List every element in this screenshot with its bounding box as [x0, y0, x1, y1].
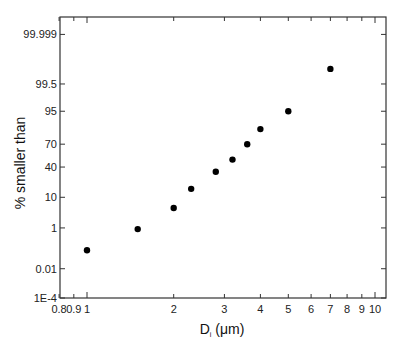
y-tick-label: 40: [45, 161, 57, 173]
data-point: [84, 247, 90, 253]
plot-area-border: [60, 17, 386, 298]
x-tick-label: 4: [257, 303, 263, 315]
x-tick-label: 3: [221, 303, 227, 315]
y-tick-label: 10: [45, 191, 57, 203]
data-point: [327, 66, 333, 72]
x-tick-label: 10: [369, 303, 381, 315]
x-tick-label: 7: [327, 303, 333, 315]
y-tick-label: 95: [45, 105, 57, 117]
y-tick-label: 99.999: [23, 28, 57, 40]
data-point: [244, 141, 250, 147]
y-tick-label: 0.01: [36, 263, 57, 275]
x-tick-label: 2: [171, 303, 177, 315]
y-tick-label: 70: [45, 138, 57, 150]
y-tick-label: 1: [51, 222, 57, 234]
x-axis-ticks: 0.80.912345678910: [51, 17, 381, 315]
probability-plot: 0.80.912345678910 1E-40.0111040709599.59…: [0, 0, 404, 348]
x-axis-title: Di (μm): [200, 321, 245, 338]
y-axis-title: % smaller than: [12, 117, 28, 210]
data-point: [285, 108, 291, 114]
x-tick-label: 5: [285, 303, 291, 315]
x-tick-label: 8: [344, 303, 350, 315]
x-tick-label: 6: [308, 303, 314, 315]
data-point: [229, 156, 235, 162]
x-tick-label: 9: [359, 303, 365, 315]
x-tick-label: 1: [84, 303, 90, 315]
data-point: [257, 126, 263, 132]
data-point: [170, 205, 176, 211]
y-tick-label: 99.5: [36, 78, 57, 90]
data-point: [188, 186, 194, 192]
data-point: [213, 169, 219, 175]
y-tick-label: 1E-4: [34, 292, 57, 304]
x-tick-label: 0.9: [66, 303, 81, 315]
x-tick-label: 0.8: [51, 303, 66, 315]
data-points: [84, 66, 334, 254]
data-point: [135, 226, 141, 232]
plot-frame: [60, 17, 386, 298]
